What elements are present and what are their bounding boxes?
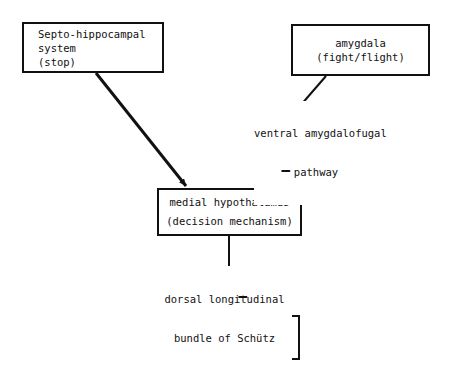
edge-label-line: dorsal longitudinal — [157, 293, 292, 306]
node-line: amygdala — [335, 36, 386, 50]
edge-label-ventral-amygdalofugal-pathway: ventral amygdalofugal pathway — [254, 101, 378, 205]
node-line: system — [38, 41, 76, 55]
node-line: (decision mechanism) — [166, 212, 292, 231]
node-line: (fight/flight) — [316, 50, 405, 64]
edge-label-line: bundle of Schütz — [157, 332, 292, 345]
diagram-canvas: Septo-hippocampal system (stop) amygdala… — [0, 0, 450, 384]
edge-label-dorsal-longitudinal-bundle: dorsal longitudinal bundle of Schütz — [157, 267, 292, 371]
edge-label-line: pathway — [254, 166, 378, 179]
node-amygdala[interactable]: amygdala (fight/flight) — [291, 24, 430, 76]
edge-label-line: ventral amygdalofugal — [254, 127, 378, 140]
sign-minus-dorsal-bundle: − — [238, 292, 248, 302]
node-line: Septo-hippocampal — [38, 27, 145, 41]
edge-septo-to-hypothalamus — [96, 73, 186, 186]
node-line: (stop) — [38, 55, 76, 69]
node-septo-hippocampal-system[interactable]: Septo-hippocampal system (stop) — [22, 22, 164, 73]
sign-minus-amygdala-pathway: − — [281, 166, 291, 176]
